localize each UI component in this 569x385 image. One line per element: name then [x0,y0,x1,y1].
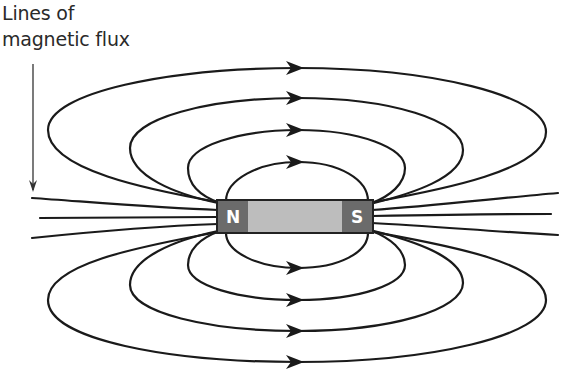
south-pole-label: S [351,207,363,227]
magnetic-field-diagram: N S [0,0,569,385]
field-lines-open-left [32,198,218,238]
north-pole-label: N [226,207,240,227]
field-loops-bottom [48,231,546,362]
arrows-bottom [286,261,304,369]
field-loops-top [48,68,546,203]
arrows-top [286,61,304,169]
label-pointer-arrow [29,64,37,192]
field-lines-open-right [372,193,558,235]
bar-magnet: N S [217,200,373,233]
